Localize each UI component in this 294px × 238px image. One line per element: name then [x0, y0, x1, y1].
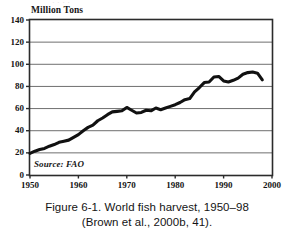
y-tick-label: 140 [0, 15, 24, 25]
y-tick-label: 100 [0, 59, 24, 69]
x-tick-label: 1990 [208, 180, 240, 190]
y-tick-label: 120 [0, 37, 24, 47]
x-tick-label: 2000 [256, 180, 288, 190]
caption-line-1: Figure 6-1. World fish harvest, 1950–98 [45, 201, 249, 213]
y-tick-label: 80 [0, 81, 24, 91]
figure-caption: Figure 6-1. World fish harvest, 1950–98 … [0, 200, 294, 230]
y-tick-label: 20 [0, 147, 24, 157]
x-tick-label: 1980 [159, 180, 191, 190]
gridlines [30, 42, 272, 153]
figure-6-1: · · · · Million Tons Source: FAO 0204060… [0, 0, 294, 238]
y-tick-label: 40 [0, 125, 24, 135]
x-tick-label: 1950 [14, 180, 46, 190]
y-tick-label: 0 [0, 170, 24, 180]
plot-frame [30, 20, 273, 176]
source-note: Source: FAO [34, 159, 84, 169]
chart-plot-area: Million Tons Source: FAO 020406080100120… [0, 0, 294, 196]
y-tick-label: 60 [0, 103, 24, 113]
caption-line-2: (Brown et al., 2000b, 41). [0, 215, 294, 230]
series-line-world-fish-harvest [30, 72, 262, 153]
x-tick-label: 1960 [62, 180, 94, 190]
x-tick-label: 1970 [111, 180, 143, 190]
